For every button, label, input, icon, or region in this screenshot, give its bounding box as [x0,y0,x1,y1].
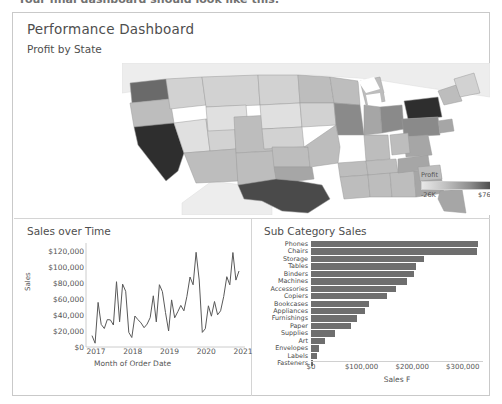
bar-track [311,308,490,315]
state-south-dakota [260,103,302,129]
bar-fill[interactable] [311,345,319,351]
bar-track [311,241,490,248]
state-ohio [380,105,404,133]
state-california [134,123,184,181]
bar-x-tick: $300,000 [446,363,479,371]
state-alabama [390,171,416,197]
profit-legend[interactable]: Profit -26K $76,381 [421,171,490,199]
state-arizona [184,149,238,183]
state-north-dakota [258,75,300,105]
state-wisconsin [330,77,360,105]
dashboard-frame: Performance Dashboard Profit by State .s… [12,12,490,396]
legend-color-ramp [421,181,490,190]
sales-line-series [92,252,239,343]
bar-fill[interactable] [311,278,407,284]
line-chart-x-axis-label: Month of Order Date [14,359,251,368]
state-kansas [272,147,310,167]
bar-chart-row[interactable]: Copiers [252,293,490,300]
bar-track [311,323,490,330]
state-indiana [364,105,382,135]
bar-track [311,301,490,308]
bar-track [311,248,490,255]
lake-michigan [366,93,382,105]
legend-scale: -26K $76,381 [421,191,490,199]
bar-chart-title: Sub Category Sales [264,225,367,237]
bar-category-label: Copiers [252,293,311,300]
bar-track [311,338,490,345]
bar-chart-x-axis-label: Sales F [311,375,483,384]
bar-track [311,353,490,360]
bar-track [311,263,490,270]
sales-over-time-panel[interactable]: Sales over Time Sales $0$20,000$40,000$6… [14,219,251,396]
bar-fill[interactable] [311,286,396,292]
line-x-tick: 2018 [123,347,142,356]
line-x-tick: 2017 [86,347,105,356]
state-oregon [130,99,174,127]
state-idaho [166,77,206,109]
bar-x-tick: $0 [307,363,316,371]
bar-chart-row[interactable]: Supplies [252,330,490,337]
bar-chart-rows[interactable]: PhonesChairsStorageTablesBindersMachines… [252,241,490,367]
bar-category-label: Fasteners [252,360,311,367]
line-x-tick: 2019 [160,347,179,356]
state-west-virginia [390,133,410,155]
state-iowa [300,103,336,127]
bar-category-label: Envelopes [252,345,311,352]
state-oklahoma [274,167,314,181]
bar-track [311,286,490,293]
state-illinois [334,103,364,135]
line-chart-title: Sales over Time [27,225,111,237]
sub-category-sales-panel[interactable]: Sub Category Sales PhonesChairsStorageTa… [252,219,490,396]
bar-fill[interactable] [311,271,414,277]
state-mississippi [368,173,392,197]
bar-fill[interactable] [311,330,335,336]
state-minnesota [298,75,334,103]
bar-fill[interactable] [311,263,416,269]
bar-fill[interactable] [311,241,478,247]
bar-x-tick: $200,000 [395,363,428,371]
legend-max-label: $76,381 [478,191,490,199]
bar-fill[interactable] [311,301,369,307]
state-new-jersey [438,119,454,133]
state-arkansas [338,161,368,177]
bar-fill[interactable] [311,323,351,329]
map-title: Profit by State [27,43,102,55]
bar-chart-x-ticks: $0$100,000$200,000$300,000 [311,363,483,375]
state-montana [202,75,260,107]
line-x-tick: 2021 [233,347,252,356]
bar-fill[interactable] [311,248,477,254]
bar-chart-axis-line [311,361,483,362]
legend-title: Profit [421,171,490,179]
bar-track [311,278,490,285]
legend-min-label: -26K [421,191,436,199]
line-chart-x-ticks: 20172018201920202021 [14,347,251,359]
bar-fill[interactable] [311,308,365,314]
state-louisiana [340,175,370,199]
bar-track [311,293,490,300]
bar-fill[interactable] [311,293,387,299]
choropleth-map[interactable]: .st{stroke:#9a9a9a;stroke-width:.5;} .s0… [122,63,490,215]
bar-track [311,345,490,352]
bar-track [311,330,490,337]
dashboard-title: Performance Dashboard [27,21,194,37]
map-panel[interactable]: Profit by State .st{stroke:#9a9a9a;strok… [14,43,490,215]
state-new-york [404,97,442,119]
bar-chart-row[interactable]: Envelopes [252,345,490,352]
page-top-note: Your final dashboard should look like th… [18,0,348,5]
state-missouri [304,125,340,167]
bar-x-tick: $100,000 [345,363,378,371]
line-x-tick: 2020 [197,347,216,356]
state-kentucky [364,135,390,161]
bar-fill[interactable] [311,338,325,344]
bar-fill[interactable] [311,315,357,321]
state-nebraska [262,127,304,149]
bar-chart-row[interactable]: Furnishings [252,315,490,322]
bar-track [311,271,490,278]
bar-track [311,315,490,322]
bar-fill[interactable] [311,353,317,359]
bar-fill[interactable] [311,256,424,262]
bar-track [311,256,490,263]
lake-huron [384,91,402,105]
